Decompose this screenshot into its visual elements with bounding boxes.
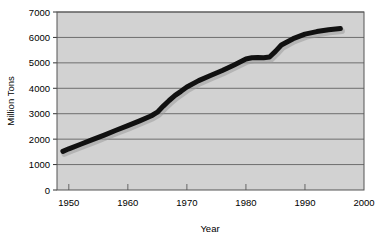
x-tick-label-1950: 1950 — [58, 197, 79, 208]
x-tick-label-2000: 2000 — [353, 197, 374, 208]
y-tick-label-4000: 4000 — [29, 83, 50, 94]
x-tick-label-1970: 1970 — [176, 197, 197, 208]
y-tick-label-7000: 7000 — [29, 7, 50, 18]
y-tick-label-5000: 5000 — [29, 57, 50, 68]
chart-container: 01000200030004000500060007000 1950196019… — [0, 0, 387, 239]
x-tick-label-1980: 1980 — [235, 197, 256, 208]
x-tick-label-1960: 1960 — [117, 197, 138, 208]
y-axis-title: Million Tons — [5, 76, 16, 126]
y-tick-label-6000: 6000 — [29, 32, 50, 43]
y-tick-label-0: 0 — [45, 185, 50, 196]
x-axis-title: Year — [200, 223, 219, 234]
line-chart: 01000200030004000500060007000 1950196019… — [0, 0, 387, 239]
y-tick-label-2000: 2000 — [29, 134, 50, 145]
y-tick-label-3000: 3000 — [29, 108, 50, 119]
y-tick-label-1000: 1000 — [29, 159, 50, 170]
x-tick-label-1990: 1990 — [294, 197, 315, 208]
plot-area-background — [57, 12, 364, 190]
